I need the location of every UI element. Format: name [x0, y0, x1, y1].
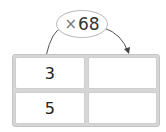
- cell-r2-right[interactable]: [88, 92, 158, 124]
- left-arc: [46, 28, 62, 56]
- multiplier-value: 68: [78, 14, 100, 34]
- arrowhead-icon: [124, 47, 130, 54]
- multiply-icon: ×: [64, 15, 77, 33]
- cell-r2-left: 5: [15, 92, 85, 124]
- right-arc: [104, 28, 128, 52]
- multiplier-oval: ×68: [56, 10, 108, 38]
- cell-r1-right[interactable]: [88, 57, 158, 89]
- ratio-table: 3 5: [12, 54, 160, 127]
- cell-r1-left: 3: [15, 57, 85, 89]
